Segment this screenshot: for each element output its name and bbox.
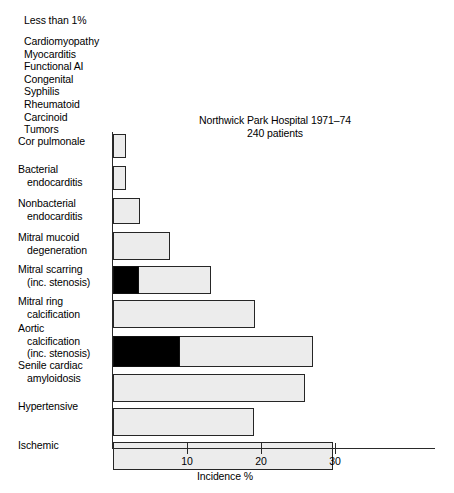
category-label-line: Mitral scarring: [18, 263, 114, 276]
category-label: Nonbacterialendocarditis: [18, 197, 114, 222]
bar-total: [113, 300, 255, 328]
category-label-line: Mitral ring: [18, 295, 114, 308]
category-axis-labels: Cor pulmonaleBacterialendocarditisNonbac…: [0, 130, 112, 440]
category-label: Mitral ringcalcification: [18, 295, 114, 320]
x-axis-tick-label: 10: [181, 455, 192, 467]
note-item: Cardiomyopathy: [24, 35, 204, 48]
note-item: Carcinoid: [24, 111, 204, 124]
x-axis-tick: [261, 443, 262, 454]
category-label-line: Cor pulmonale: [18, 135, 114, 148]
bar-total: [113, 374, 305, 402]
bar-row: [113, 134, 126, 158]
x-axis-line: [113, 448, 435, 449]
category-label: Senile cardiacamyloidosis: [18, 359, 114, 384]
note-heading: Less than 1%: [24, 14, 204, 27]
category-label-line: Hypertensive: [18, 400, 114, 413]
category-label-line: Ischemic: [18, 439, 114, 452]
bar-row: [113, 266, 211, 294]
bar-stenosis-segment: [113, 266, 139, 294]
bar-total: [113, 198, 140, 224]
note-item: Rheumatoid: [24, 98, 204, 111]
category-label: Ischemic: [18, 439, 114, 452]
category-label-line: calcification: [18, 308, 114, 321]
x-axis-title: Incidence %: [197, 470, 253, 482]
bar-total: [113, 442, 333, 470]
note-list: Cardiomyopathy Myocarditis Functional AI…: [24, 35, 204, 136]
bar-row: [113, 300, 255, 328]
note-item: Myocarditis: [24, 48, 204, 61]
bar-total: [113, 408, 254, 436]
category-label-line: Aortic: [18, 322, 114, 335]
bar-total: [113, 166, 126, 190]
x-axis-tick: [187, 443, 188, 454]
bar-total: [113, 134, 126, 158]
bar-stenosis-segment: [113, 336, 180, 367]
bar-series-group: [113, 130, 454, 440]
category-label-line: endocarditis: [18, 176, 114, 189]
category-label-line: Bacterial: [18, 163, 114, 176]
category-label-line: (inc. stenosis): [18, 347, 114, 360]
note-item: Congenital: [24, 73, 204, 86]
category-label-line: Senile cardiac: [18, 359, 114, 372]
chart-title-line: Northwick Park Hospital 1971–74: [180, 114, 370, 127]
bar-row: [113, 336, 313, 367]
note-item: Syphilis: [24, 85, 204, 98]
bar-total: [113, 232, 170, 260]
x-axis-tick-label: 30: [329, 455, 340, 467]
category-label-line: amyloidosis: [18, 372, 114, 385]
bar-row: [113, 166, 126, 190]
y-axis-line: [112, 132, 113, 449]
category-label-line: calcification: [18, 335, 114, 348]
category-label-line: endocarditis: [18, 210, 114, 223]
category-label-line: degeneration: [18, 244, 114, 257]
chart-figure: Less than 1% Cardiomyopathy Myocarditis …: [0, 0, 454, 493]
category-label: Mitral scarring(inc. stenosis): [18, 263, 114, 288]
category-label: Cor pulmonale: [18, 135, 114, 148]
note-item: Functional AI: [24, 60, 204, 73]
bar-row: [113, 408, 254, 436]
category-label: Hypertensive: [18, 400, 114, 413]
less-than-one-percent-note: Less than 1% Cardiomyopathy Myocarditis …: [24, 14, 204, 136]
x-axis-tick-label: 20: [255, 455, 266, 467]
plot-area: Cor pulmonaleBacterialendocarditisNonbac…: [0, 130, 454, 450]
category-label-line: (inc. stenosis): [18, 276, 114, 289]
bar-row: [113, 198, 140, 224]
category-label-line: Nonbacterial: [18, 197, 114, 210]
bar-row: [113, 442, 333, 470]
x-axis-tick: [335, 443, 336, 454]
category-label: Aorticcalcification(inc. stenosis): [18, 322, 114, 360]
category-label: Mitral mucoiddegeneration: [18, 231, 114, 256]
bar-row: [113, 232, 170, 260]
category-label-line: Mitral mucoid: [18, 231, 114, 244]
bar-row: [113, 374, 305, 402]
category-label: Bacterialendocarditis: [18, 163, 114, 188]
